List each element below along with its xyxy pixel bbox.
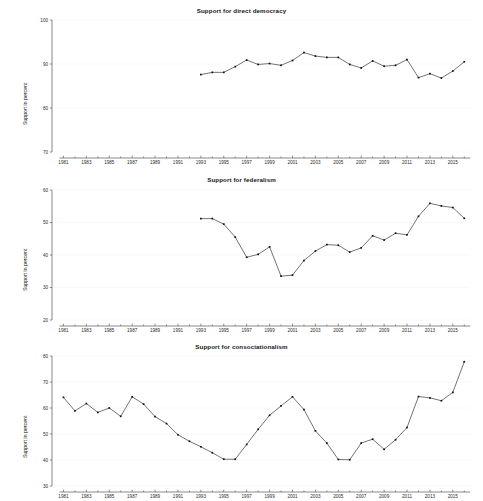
svg-text:2009: 2009: [379, 328, 390, 333]
svg-text:1991: 1991: [173, 494, 184, 499]
plot-svg-2: 2030405060198119831985198719891991199319…: [0, 168, 483, 336]
svg-text:2013: 2013: [425, 494, 436, 499]
svg-text:1987: 1987: [127, 160, 138, 165]
svg-text:1985: 1985: [104, 494, 115, 499]
svg-text:2005: 2005: [333, 328, 344, 333]
svg-text:1991: 1991: [173, 160, 184, 165]
svg-text:30: 30: [43, 484, 49, 489]
svg-text:1995: 1995: [219, 494, 230, 499]
svg-text:1981: 1981: [58, 494, 69, 499]
svg-text:1987: 1987: [127, 494, 138, 499]
plot-area-3: 3040506070801981198319851987198919911993…: [0, 336, 483, 501]
plot-area-2: 2030405060198119831985198719891991199319…: [0, 168, 483, 336]
svg-text:2001: 2001: [287, 160, 298, 165]
svg-text:2011: 2011: [402, 328, 412, 333]
svg-text:2013: 2013: [425, 160, 436, 165]
svg-text:2001: 2001: [287, 494, 298, 499]
svg-text:1993: 1993: [196, 494, 207, 499]
svg-text:2015: 2015: [448, 494, 459, 499]
svg-text:2003: 2003: [310, 494, 321, 499]
svg-text:1983: 1983: [81, 494, 92, 499]
svg-text:70: 70: [43, 150, 49, 155]
svg-text:1993: 1993: [196, 160, 207, 165]
svg-text:1993: 1993: [196, 328, 207, 333]
plot-area-1: 7080901001981198319851987198919911993199…: [0, 0, 483, 170]
svg-text:80: 80: [43, 354, 49, 359]
svg-text:2013: 2013: [425, 328, 436, 333]
svg-text:2011: 2011: [402, 494, 412, 499]
plot-svg-3: 3040506070801981198319851987198919911993…: [0, 336, 483, 501]
svg-text:1997: 1997: [242, 494, 253, 499]
svg-text:2009: 2009: [379, 494, 390, 499]
svg-text:2005: 2005: [333, 494, 344, 499]
svg-text:1985: 1985: [104, 328, 115, 333]
svg-text:1985: 1985: [104, 160, 115, 165]
svg-text:1989: 1989: [150, 160, 161, 165]
svg-text:60: 60: [43, 406, 49, 411]
svg-text:2015: 2015: [448, 328, 459, 333]
svg-text:40: 40: [43, 253, 49, 258]
svg-text:1995: 1995: [219, 328, 230, 333]
svg-text:20: 20: [43, 318, 49, 323]
chart-panel-direct-democracy: Support for direct democracy Support in …: [0, 0, 483, 170]
svg-text:40: 40: [43, 458, 49, 463]
svg-text:1987: 1987: [127, 328, 138, 333]
svg-text:1991: 1991: [173, 328, 184, 333]
svg-text:30: 30: [43, 285, 49, 290]
svg-text:90: 90: [43, 62, 49, 67]
svg-text:1995: 1995: [219, 160, 230, 165]
svg-text:100: 100: [40, 18, 48, 23]
svg-text:1983: 1983: [81, 160, 92, 165]
svg-text:1983: 1983: [81, 328, 92, 333]
svg-text:2003: 2003: [310, 328, 321, 333]
svg-text:2011: 2011: [402, 160, 412, 165]
svg-text:60: 60: [43, 188, 49, 193]
svg-text:2003: 2003: [310, 160, 321, 165]
svg-text:2007: 2007: [356, 494, 367, 499]
chart-panel-consociationalism: Support for consociationalism Support in…: [0, 336, 483, 501]
svg-text:1989: 1989: [150, 494, 161, 499]
svg-text:2015: 2015: [448, 160, 459, 165]
svg-text:1989: 1989: [150, 328, 161, 333]
svg-text:1999: 1999: [264, 160, 275, 165]
svg-text:1999: 1999: [264, 328, 275, 333]
svg-text:1997: 1997: [242, 160, 253, 165]
svg-text:2007: 2007: [356, 160, 367, 165]
svg-text:2005: 2005: [333, 160, 344, 165]
svg-text:70: 70: [43, 380, 49, 385]
svg-text:1999: 1999: [264, 494, 275, 499]
svg-text:1981: 1981: [58, 328, 69, 333]
figure-container: Support for direct democracy Support in …: [0, 0, 483, 501]
svg-text:50: 50: [43, 432, 49, 437]
svg-text:2001: 2001: [287, 328, 298, 333]
svg-text:2009: 2009: [379, 160, 390, 165]
svg-text:50: 50: [43, 220, 49, 225]
svg-text:1981: 1981: [58, 160, 69, 165]
svg-text:80: 80: [43, 106, 49, 111]
svg-text:1997: 1997: [242, 328, 253, 333]
chart-panel-federalism: Support for federalism Support in percen…: [0, 168, 483, 336]
svg-text:2007: 2007: [356, 328, 367, 333]
plot-svg-1: 7080901001981198319851987198919911993199…: [0, 0, 483, 170]
